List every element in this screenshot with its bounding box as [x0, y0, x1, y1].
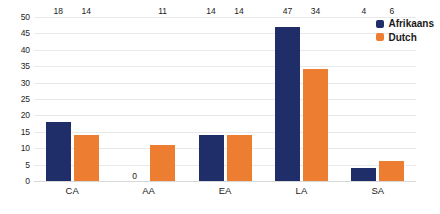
bar-value-label: 14 [206, 7, 215, 16]
bar-rect[interactable] [227, 135, 252, 181]
legend-item-afrikaans[interactable]: Afrikaans [376, 18, 434, 30]
bar-groups: 18140111414473446 [34, 17, 416, 181]
bar-ca-dutch[interactable]: 14 [74, 17, 99, 181]
x-axis-tick-label-aa: AA [110, 183, 186, 203]
y-axis-tick-label: 25 [4, 95, 30, 104]
y-axis-tick-label: 30 [4, 78, 30, 87]
bar-group-aa: 011 [110, 17, 186, 181]
x-axis-tick-label-sa: SA [340, 183, 416, 203]
bar-rect[interactable] [379, 161, 404, 181]
legend-label: Dutch [388, 32, 416, 44]
bar-value-label: 34 [311, 7, 320, 16]
legend-swatch-icon [376, 33, 384, 41]
y-axis-tick-label: 20 [4, 111, 30, 120]
x-axis-tick-label-la: LA [263, 183, 339, 203]
bar-value-label: 6 [389, 7, 394, 16]
gridline [34, 181, 416, 182]
bar-aa-dutch[interactable]: 11 [150, 17, 175, 181]
bar-sa-afrikaans[interactable]: 4 [351, 17, 376, 181]
bar-value-label: 47 [283, 7, 292, 16]
y-axis: 05101520253035404550 [0, 17, 30, 181]
chart-legend: AfrikaansDutch [376, 18, 434, 43]
bar-ea-dutch[interactable]: 14 [227, 17, 252, 181]
x-axis-tick-label-ca: CA [34, 183, 110, 203]
legend-label: Afrikaans [388, 18, 434, 30]
bar-la-afrikaans[interactable]: 47 [275, 17, 300, 181]
bar-group-ca: 1814 [34, 17, 110, 181]
bar-rect[interactable] [46, 122, 71, 181]
bar-rect[interactable] [275, 27, 300, 181]
y-axis-tick-label: 45 [4, 29, 30, 38]
y-axis-tick-label: 5 [4, 160, 30, 169]
y-axis-tick-label: 0 [4, 177, 30, 186]
y-axis-tick-label: 10 [4, 144, 30, 153]
bar-group-ea: 1414 [187, 17, 263, 181]
bar-aa-afrikaans[interactable]: 0 [122, 17, 147, 181]
bar-rect[interactable] [199, 135, 224, 181]
y-axis-tick-label: 35 [4, 62, 30, 71]
y-axis-tick-label: 50 [4, 13, 30, 22]
bar-group-bars: 1814 [34, 17, 110, 181]
bar-value-label: 4 [361, 7, 366, 16]
bar-value-label: 0 [132, 172, 137, 181]
legend-swatch-icon [376, 20, 384, 28]
bar-value-label: 14 [234, 7, 243, 16]
bar-rect[interactable] [303, 69, 328, 181]
plot-area: 18140111414473446 [34, 17, 416, 181]
y-axis-tick-label: 15 [4, 128, 30, 137]
bar-group-bars: 011 [110, 17, 186, 181]
x-axis: CAAAEALASA [34, 183, 416, 203]
bar-ea-afrikaans[interactable]: 14 [199, 17, 224, 181]
bar-rect[interactable] [74, 135, 99, 181]
bar-value-label: 14 [81, 7, 90, 16]
x-axis-tick-label-ea: EA [187, 183, 263, 203]
bar-chart: 18140111414473446 05101520253035404550 C… [0, 0, 440, 214]
bar-group-bars: 4734 [263, 17, 339, 181]
bar-group-bars: 1414 [187, 17, 263, 181]
bar-rect[interactable] [150, 145, 175, 181]
bar-value-label: 11 [158, 7, 167, 16]
bar-group-la: 4734 [263, 17, 339, 181]
bar-value-label: 18 [53, 7, 62, 16]
legend-item-dutch[interactable]: Dutch [376, 32, 434, 44]
bar-ca-afrikaans[interactable]: 18 [46, 17, 71, 181]
bar-rect[interactable] [351, 168, 376, 181]
y-axis-tick-label: 40 [4, 46, 30, 55]
bar-la-dutch[interactable]: 34 [303, 17, 328, 181]
